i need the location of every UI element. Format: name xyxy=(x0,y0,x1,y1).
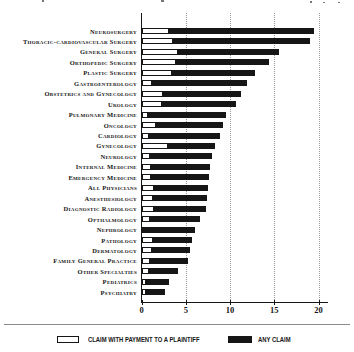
bar-claim-with-payment xyxy=(142,237,153,243)
legend-swatch-claim-with-payment xyxy=(57,336,79,343)
category-label: Pediatrics xyxy=(103,277,137,286)
cropped-title-fragment xyxy=(323,2,325,3)
bar-claim-with-payment xyxy=(142,70,172,76)
bar-any-claim xyxy=(142,49,279,55)
plot-area xyxy=(141,13,328,303)
bar-any-claim xyxy=(142,164,210,170)
bar-any-claim xyxy=(142,237,192,243)
bar-any-claim xyxy=(142,289,165,295)
bar-claim-with-payment xyxy=(142,227,144,233)
gridline-20 xyxy=(319,13,320,302)
bar-any-claim xyxy=(142,80,247,86)
bar-any-claim xyxy=(142,91,241,97)
bar-any-claim xyxy=(142,143,215,149)
category-label: General Surgery xyxy=(80,47,137,56)
category-label: Internal Medicine xyxy=(76,162,137,171)
bar-claim-with-payment xyxy=(142,258,150,264)
bar-claim-with-payment xyxy=(142,112,148,118)
bar-any-claim xyxy=(142,185,208,191)
chart-figure: NeurosurgeryThoracic-cardiovascular Surg… xyxy=(0,0,354,352)
bar-claim-with-payment xyxy=(142,174,151,180)
category-label: Gastroenterology xyxy=(74,79,137,88)
bar-any-claim xyxy=(142,133,220,139)
category-label: Psychiatry xyxy=(101,288,137,297)
bar-any-claim xyxy=(142,101,236,107)
bar-claim-with-payment xyxy=(142,289,146,295)
bar-claim-with-payment xyxy=(142,247,152,253)
bar-any-claim xyxy=(142,153,212,159)
bar-claim-with-payment xyxy=(142,153,150,159)
bar-any-claim xyxy=(142,174,209,180)
bar-claim-with-payment xyxy=(142,279,146,285)
gridline-10 xyxy=(230,13,231,302)
cropped-title-fragment xyxy=(42,0,44,2)
bar-any-claim xyxy=(142,279,169,285)
category-label: Dermatology xyxy=(92,246,137,255)
legend-label-any-claim: ANY CLAIM xyxy=(258,336,291,343)
bar-any-claim xyxy=(142,216,200,222)
bar-claim-with-payment xyxy=(142,28,169,34)
bar-claim-with-payment xyxy=(142,101,162,107)
category-label: Nephrology xyxy=(97,225,137,234)
bar-claim-with-payment xyxy=(142,143,168,149)
bar-claim-with-payment xyxy=(142,49,178,55)
separator-line xyxy=(4,324,350,325)
category-label: Anesthesiology xyxy=(84,194,137,203)
bar-claim-with-payment xyxy=(142,216,150,222)
category-label: Orthopedic Surgery xyxy=(70,58,137,67)
bar-any-claim xyxy=(142,268,178,274)
gridline-15 xyxy=(274,13,275,302)
x-tick-label-10: 10 xyxy=(226,305,235,315)
category-label: Emergency Medicine xyxy=(68,173,137,182)
bar-any-claim xyxy=(142,38,310,44)
cropped-title-fragment xyxy=(310,1,312,3)
bar-any-claim xyxy=(142,70,255,76)
bar-claim-with-payment xyxy=(142,195,153,201)
bar-claim-with-payment xyxy=(142,80,152,86)
cropped-title-fragment xyxy=(338,2,340,3)
bar-any-claim xyxy=(142,206,206,212)
category-label: Diagnostic Radiology xyxy=(64,204,137,213)
bar-claim-with-payment xyxy=(142,206,154,212)
legend-swatch-any-claim xyxy=(228,336,252,343)
x-tick-label-0: 0 xyxy=(139,305,143,315)
category-label: Oncology xyxy=(104,121,137,130)
category-label: Pathology xyxy=(101,236,137,245)
bar-claim-with-payment xyxy=(142,122,156,128)
legend-label-claim-with-payment: CLAIM WITH PAYMENT TO A PLAINTIFF xyxy=(88,336,199,343)
category-label: Opthalmology xyxy=(88,215,137,224)
bar-any-claim xyxy=(142,195,207,201)
bar-claim-with-payment xyxy=(142,185,154,191)
category-label: Family General Practice xyxy=(53,256,137,265)
bar-any-claim xyxy=(142,28,314,34)
x-tick-label-5: 5 xyxy=(184,305,188,315)
bar-claim-with-payment xyxy=(142,38,173,44)
cropped-title-fragment xyxy=(161,0,164,2)
category-label: Obstetrics and Gynecology xyxy=(44,89,137,98)
category-label: Cardiology xyxy=(98,131,137,140)
category-label: Urology xyxy=(108,100,137,109)
category-label: Other Specialties xyxy=(78,267,137,276)
bar-any-claim xyxy=(142,247,190,253)
x-tick-label-20: 20 xyxy=(314,305,323,315)
bar-claim-with-payment xyxy=(142,91,163,97)
bar-claim-with-payment xyxy=(142,268,149,274)
category-label: Neurosurgery xyxy=(90,27,137,36)
bar-any-claim xyxy=(142,122,223,128)
category-label: All Physicians xyxy=(88,183,137,192)
category-label: Neurology xyxy=(100,152,137,161)
category-label: Pulmonary Medicine xyxy=(69,110,137,119)
bar-any-claim xyxy=(142,227,195,233)
bar-claim-with-payment xyxy=(142,133,149,139)
bar-any-claim xyxy=(142,59,269,65)
bar-claim-with-payment xyxy=(142,164,151,170)
bar-any-claim xyxy=(142,112,226,118)
category-label: Gynecology xyxy=(96,141,137,150)
category-label: Thoracic-cardiovascular Surgery xyxy=(23,37,137,46)
bar-claim-with-payment xyxy=(142,59,176,65)
bar-any-claim xyxy=(142,258,188,264)
category-label: Plastic Surgery xyxy=(83,68,137,77)
x-tick-label-15: 15 xyxy=(270,305,279,315)
